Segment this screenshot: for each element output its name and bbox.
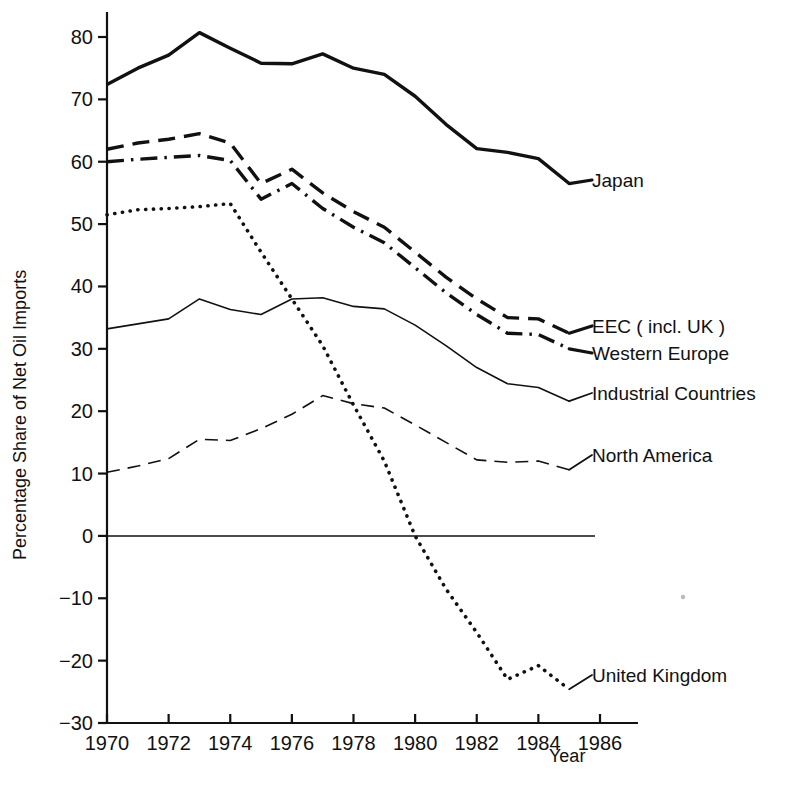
y-tick-label: −30 [59, 712, 93, 734]
y-tick-label: −20 [59, 650, 93, 672]
x-tick-label: 1972 [146, 732, 191, 754]
series-labels: JapanEEC ( incl. UK )Western EuropeIndus… [592, 170, 756, 686]
y-axis-ticks: −30−20−1001020304050607080 [59, 26, 107, 734]
y-tick-label: 70 [71, 88, 93, 110]
north-america-series-label: North America [592, 445, 713, 466]
y-tick-label: 50 [71, 213, 93, 235]
series-leader-lines [569, 180, 592, 689]
y-tick-label: −10 [59, 587, 93, 609]
japan-series-label: Japan [592, 170, 644, 191]
y-tick-label: 20 [71, 400, 93, 422]
chart-figure: −30−20−1001020304050607080 1970197219741… [0, 0, 790, 801]
x-tick-label: 1982 [455, 732, 500, 754]
x-axis-title: Year [549, 746, 585, 766]
series-line [107, 298, 569, 402]
y-tick-label: 40 [71, 275, 93, 297]
x-tick-label: 1970 [85, 732, 130, 754]
leader-line [569, 675, 592, 689]
y-tick-label: 10 [71, 463, 93, 485]
leader-line [569, 349, 592, 353]
axes [107, 12, 638, 723]
scan-speck [681, 595, 685, 599]
series-line [107, 134, 569, 334]
eec-series-label: EEC ( incl. UK ) [592, 316, 725, 337]
y-axis-title: Percentage Share of Net Oil Imports [10, 270, 30, 560]
x-axis-ticks: 197019721974197619781980198219841986 [85, 714, 623, 754]
x-tick-label: 1980 [393, 732, 438, 754]
x-tick-label: 1978 [331, 732, 376, 754]
series-line [107, 396, 569, 473]
x-tick-label: 1976 [270, 732, 315, 754]
y-tick-label: 80 [71, 26, 93, 48]
line-chart-canvas: −30−20−1001020304050607080 1970197219741… [0, 0, 790, 801]
leader-line [569, 180, 592, 184]
series-line [107, 204, 569, 690]
leader-line [569, 393, 592, 401]
x-tick-label: 1974 [208, 732, 253, 754]
y-tick-label: 60 [71, 151, 93, 173]
industrial-countries-series-label: Industrial Countries [592, 383, 756, 404]
series-line [107, 33, 569, 184]
western-europe-series-label: Western Europe [592, 343, 729, 364]
series-line [107, 155, 569, 348]
leader-line [569, 326, 592, 333]
y-tick-label: 0 [82, 525, 93, 547]
leader-line [569, 455, 592, 470]
data-series [107, 33, 569, 690]
y-tick-label: 30 [71, 338, 93, 360]
united-kingdom-series-label: United Kingdom [592, 665, 727, 686]
